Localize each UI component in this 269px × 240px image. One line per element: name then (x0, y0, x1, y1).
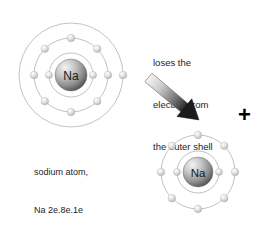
atom-electron (45, 71, 52, 78)
ion-electron (194, 131, 202, 139)
atom-electron (89, 71, 96, 78)
sodium-atom-diagram: Na (9, 13, 133, 137)
ion-electron (216, 169, 223, 176)
atom-caption: sodium atom, Na 2e.8e.1e (34, 141, 88, 240)
ion-electron (220, 142, 228, 150)
arrow-shaft (145, 73, 190, 114)
ion-electron (231, 168, 239, 176)
atom-caption-line-2: Na 2e.8e.1e (34, 204, 88, 217)
atom-electron (93, 97, 101, 105)
ion-electron (157, 168, 165, 176)
atom-nucleus-label: Na (63, 69, 79, 83)
diagram-canvas: Na sodium atom, Na 2e.8e.1e loses the el… (0, 0, 269, 240)
atom-electron (104, 71, 112, 79)
ion-electron (168, 194, 176, 202)
atom-electron (67, 108, 75, 116)
sodium-ion-diagram: Na (154, 128, 246, 220)
atom-valence-electron (119, 71, 127, 79)
atom-caption-line-1: sodium atom, (34, 166, 88, 179)
atom-electron (67, 34, 75, 42)
atom-electron (93, 45, 101, 53)
ion-electron (194, 205, 202, 213)
ion-nucleus-label: Na (191, 167, 206, 179)
ion-electron (220, 194, 228, 202)
positive-charge-symbol: + (238, 104, 251, 126)
electron-loss-arrow (145, 73, 213, 125)
ion-electron (168, 142, 176, 150)
ion-electron (174, 169, 181, 176)
note-line-1: loses the (153, 56, 213, 70)
atom-electron (41, 97, 49, 105)
atom-electron (41, 45, 49, 53)
atom-electron (30, 71, 38, 79)
